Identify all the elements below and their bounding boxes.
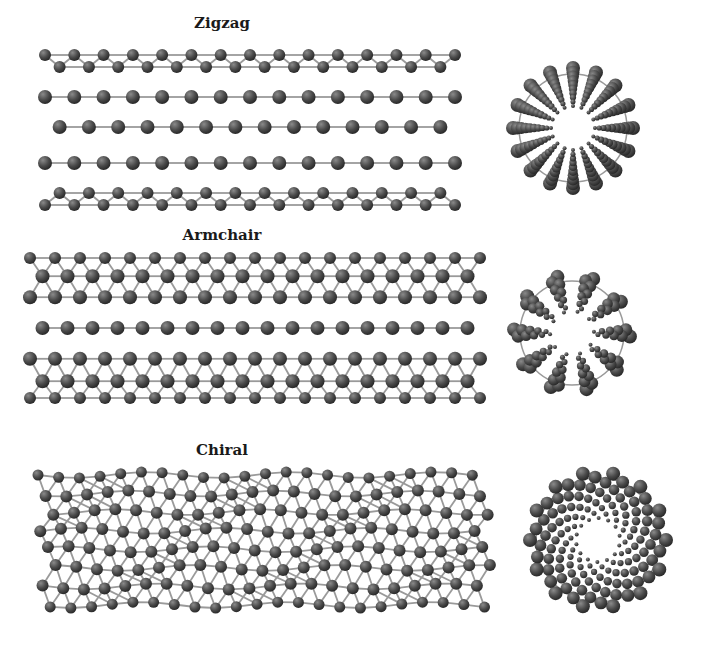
chiral-end-view [0,0,717,668]
